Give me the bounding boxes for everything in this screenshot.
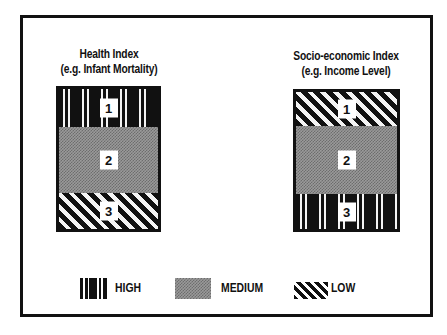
legend-label-medium: MEDIUM [221,280,263,295]
band-number: 1 [100,99,118,118]
legend-label-low: LOW [331,280,355,295]
legend-label-high: HIGH [115,280,141,295]
diagonal-hatch-swatch-icon [294,282,328,299]
socio-band-1-low: 1 [296,92,397,126]
band-number: 3 [100,202,118,221]
band-number: 3 [338,202,356,221]
health-band-1-high: 1 [59,89,158,127]
left-panel-title: Health Index (e.g. Infant Mortality) [35,47,183,77]
band-number: 2 [338,151,356,170]
socio-band-3-high: 3 [296,194,397,229]
left-title-line1: Health Index [35,47,183,62]
right-title-line1: Socio-economic Index [272,49,420,64]
vertical-bars-swatch-icon [80,278,107,299]
legend: HIGH MEDIUM LOW [0,278,447,300]
stipple-swatch-icon [175,278,211,299]
band-number: 2 [100,151,118,170]
socio-band-2-medium: 2 [296,126,397,194]
health-band-3-low: 3 [59,193,158,229]
left-title-line2: (e.g. Infant Mortality) [35,62,183,77]
health-index-box: 1 2 3 [56,86,161,232]
health-band-2-medium: 2 [59,127,158,193]
band-number: 1 [338,100,356,119]
right-title-line2: (e.g. Income Level) [272,64,420,79]
right-panel-title: Socio-economic Index (e.g. Income Level) [272,49,420,79]
socioeconomic-index-box: 1 2 3 [293,89,400,232]
